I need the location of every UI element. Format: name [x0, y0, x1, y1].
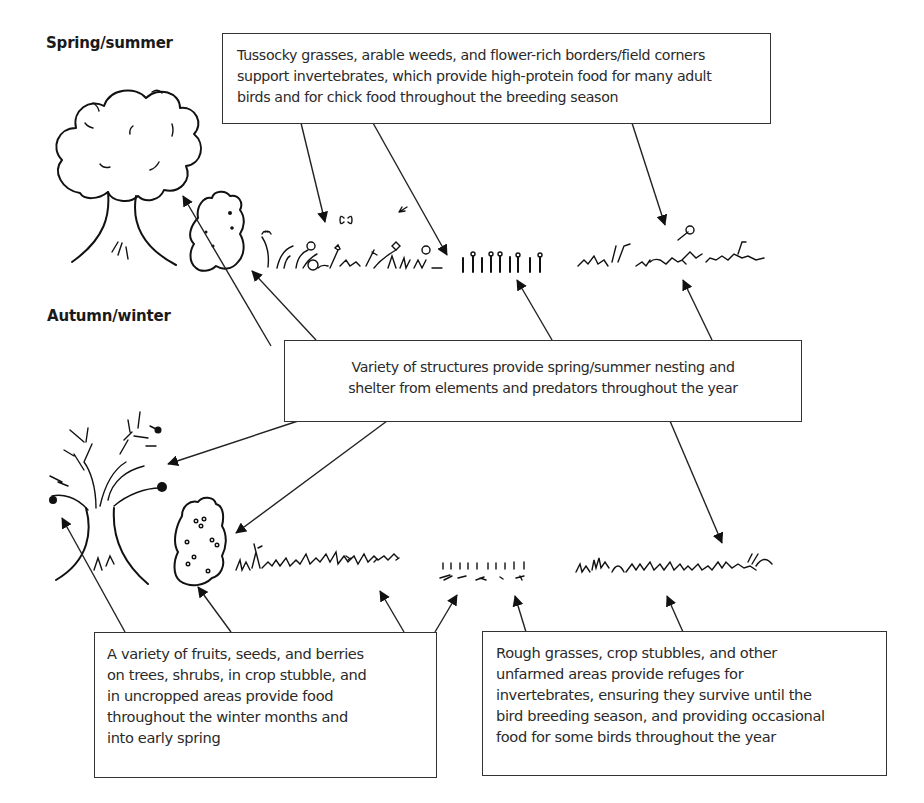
arrow-mid-to-tree	[183, 196, 271, 346]
invertebrates-food-callout: Tussocky grasses, arable weeds, and flow…	[222, 33, 771, 124]
callout-line: Tussocky grasses, arable weeds, and flow…	[237, 45, 770, 66]
seeding-weeds-icon	[236, 544, 399, 570]
arrow-food-to-stubble	[435, 595, 457, 632]
crop-stubble-icon	[463, 252, 542, 272]
arrow-top-to-weeds	[301, 123, 325, 222]
structures-shelter-callout: Variety of structures provide spring/sum…	[284, 340, 802, 422]
arrow-food-to-shrub	[198, 587, 231, 632]
callout-line: A variety of fruits, seeds, and berries	[107, 643, 436, 664]
spring-summer-label: Spring/summer	[46, 34, 173, 52]
arrow-food-to-weeds	[380, 591, 404, 632]
callout-line: throughout the winter months and	[107, 706, 436, 727]
arrow-mid-to-bare-tree	[168, 421, 298, 464]
arrow-mid-to-grass	[683, 280, 712, 340]
arrow-refuge-to-stubble	[515, 596, 526, 632]
arrow-refuge-to-grass	[667, 596, 683, 632]
flowering-weeds-icon	[262, 207, 442, 270]
arrow-mid-to-berry-shrub	[236, 421, 387, 533]
berry-shrub-icon	[175, 498, 226, 586]
callout-line: on trees, shrubs, in crop stubble, and	[107, 664, 436, 685]
callout-line: birds and for chick food throughout the …	[237, 87, 770, 108]
arrow-top-to-grass	[632, 123, 665, 225]
callout-line: into early spring	[107, 727, 436, 748]
callout-line: in uncropped areas provide food	[107, 685, 436, 706]
autumn-winter-label: Autumn/winter	[47, 307, 171, 325]
callout-line: unfarmed areas provide refuges for	[496, 663, 886, 684]
leafy-tree-icon	[56, 90, 201, 265]
callout-line: support invertebrates, which provide hig…	[237, 66, 770, 87]
arrow-top-to-stubble	[373, 123, 447, 255]
callout-line: Rough grasses, crop stubbles, and other	[496, 642, 886, 663]
bare-fruiting-tree-icon	[49, 412, 167, 584]
callout-line: food for some birds throughout the year	[496, 726, 886, 747]
refuges-callout: Rough grasses, crop stubbles, and other …	[482, 631, 887, 776]
callout-line: shelter from elements and predators thro…	[285, 378, 801, 399]
winter-food-callout: A variety of fruits, seeds, and berries …	[94, 632, 437, 778]
callout-line: Variety of structures provide spring/sum…	[285, 357, 801, 378]
leafy-shrub-icon	[190, 192, 244, 271]
arrow-mid-to-stubble	[517, 280, 552, 340]
callout-line: bird breeding season, and providing occa…	[496, 705, 886, 726]
rough-grass-icon	[576, 554, 772, 572]
tussocky-grass-icon	[578, 226, 764, 266]
arrow-mid-to-rough-grass	[670, 421, 722, 543]
callout-line: invertebrates, ensuring they survive unt…	[496, 684, 886, 705]
cut-stubble-icon	[440, 562, 524, 580]
